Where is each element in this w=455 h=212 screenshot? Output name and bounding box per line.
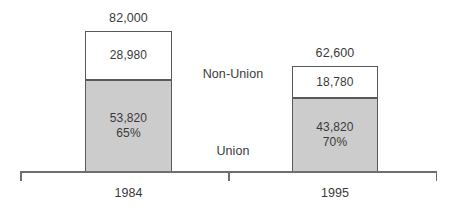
bar-segment-value-union-1995: 43,820	[316, 120, 353, 135]
bar-segment-percent-union-1995: 70%	[316, 135, 353, 150]
x-axis-label-1984: 1984	[85, 186, 172, 200]
x-axis-tick-right	[436, 172, 438, 181]
bar-segment-nonunion-1984[interactable]: 28,980	[85, 31, 172, 80]
bar-segment-percent-union-1984: 65%	[110, 126, 147, 141]
x-axis-label-1995: 1995	[292, 186, 378, 200]
series-label-union: Union	[183, 144, 283, 158]
bar-total-label-1995: 62,600	[292, 46, 378, 60]
bar-segment-value-nonunion-1984: 28,980	[110, 48, 147, 63]
series-label-nonunion: Non-Union	[183, 67, 283, 81]
bar-segment-nonunion-1995[interactable]: 18,780	[292, 66, 378, 98]
x-axis-tick-center	[228, 172, 230, 181]
x-axis-tick-left	[20, 172, 22, 181]
bar-segment-union-1995[interactable]: 43,820 70%	[292, 98, 378, 172]
bar-segment-union-1984[interactable]: 53,820 65%	[85, 80, 172, 172]
bar-segment-value-union-1984: 53,820	[110, 111, 147, 126]
bar-total-label-1984: 82,000	[85, 11, 172, 25]
stacked-bar-chart: 82,000 62,600 28,980 53,820 65% 18,780 4…	[0, 0, 455, 212]
bar-segment-value-nonunion-1995: 18,780	[316, 75, 353, 90]
